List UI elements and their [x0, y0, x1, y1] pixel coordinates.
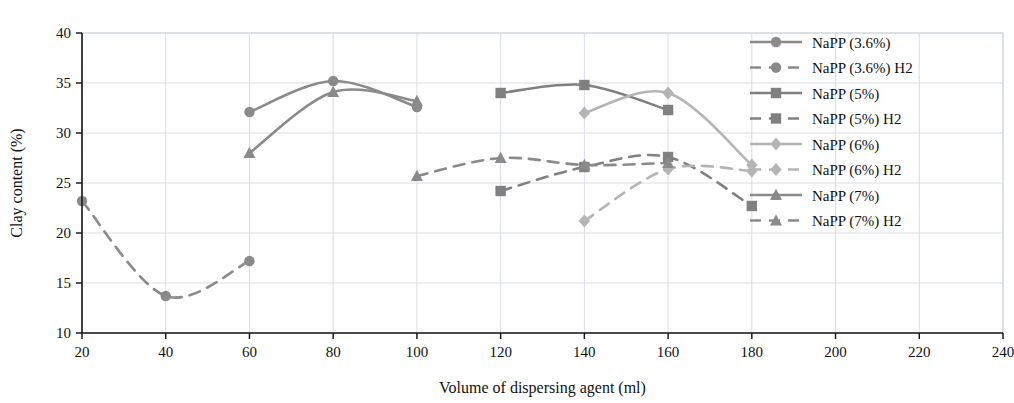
legend-item-3[interactable]: NaPP (5%) H2 [750, 111, 901, 128]
legend-item-2[interactable]: NaPP (5%) [750, 86, 879, 103]
legend-item-1[interactable]: NaPP (3.6%) H2 [750, 60, 913, 77]
legend-label: NaPP (6%) H2 [812, 162, 901, 179]
data-point [747, 201, 757, 211]
legend-label: NaPP (3.6%) H2 [812, 60, 913, 77]
legend-label: NaPP (5%) H2 [812, 111, 901, 128]
data-point [161, 291, 171, 301]
data-point [328, 76, 338, 86]
legend-item-6[interactable]: NaPP (7%) [750, 188, 879, 205]
x-tick-label: 200 [824, 344, 847, 360]
y-tick-label: 35 [56, 75, 71, 91]
gridlines [82, 33, 1003, 333]
y-tick-label: 30 [56, 125, 71, 141]
legend-item-5[interactable]: NaPP (6%) H2 [750, 162, 901, 179]
clay-content-chart: 1015202530354020406080100120140160180200… [0, 0, 1014, 403]
data-point [244, 256, 254, 266]
x-tick-label: 220 [908, 344, 931, 360]
y-tick-label: 15 [56, 275, 71, 291]
legend-marker-circle [771, 62, 781, 72]
y-tick-label: 10 [56, 325, 71, 341]
data-point [244, 107, 254, 117]
x-tick-label: 40 [158, 344, 173, 360]
data-point [579, 80, 589, 90]
y-tick-label: 20 [56, 225, 71, 241]
legend-marker-diamond [770, 163, 781, 176]
y-axis-title: Clay content (%) [8, 128, 26, 237]
data-point [495, 186, 505, 196]
axis-layer [76, 33, 1003, 339]
x-tick-label: 80 [326, 344, 341, 360]
data-point [579, 215, 590, 228]
legend-label: NaPP (6%) [812, 137, 879, 154]
x-tick-label: 240 [992, 344, 1014, 360]
legend-marker-square [771, 113, 781, 123]
x-tick-label: 180 [741, 344, 764, 360]
legend-marker-circle [771, 37, 781, 47]
y-tick-label: 40 [56, 25, 71, 41]
legend-label: NaPP (7%) [812, 188, 879, 205]
x-axis-title: Volume of dispersing agent (ml) [439, 379, 646, 397]
legend-item-0[interactable]: NaPP (3.6%) [750, 35, 891, 52]
legend-item-7[interactable]: NaPP (7%) H2 [750, 213, 901, 230]
legend-label: NaPP (5%) [812, 86, 879, 103]
legend-marker-diamond [770, 138, 781, 151]
legend-label: NaPP (3.6%) [812, 35, 891, 52]
y-tick-label: 25 [56, 175, 71, 191]
x-tick-label: 20 [75, 344, 90, 360]
x-tick-label: 120 [489, 344, 512, 360]
x-tick-label: 160 [657, 344, 680, 360]
legend-item-4[interactable]: NaPP (6%) [750, 137, 879, 154]
legend-label: NaPP (7%) H2 [812, 213, 901, 230]
x-tick-label: 140 [573, 344, 596, 360]
legend-marker-square [771, 88, 781, 98]
x-tick-label: 60 [242, 344, 257, 360]
data-point [495, 88, 505, 98]
chart-canvas: 1015202530354020406080100120140160180200… [0, 0, 1014, 403]
data-point [662, 87, 673, 100]
data-point [579, 107, 590, 120]
data-point [663, 105, 673, 115]
x-tick-label: 100 [406, 344, 429, 360]
legend[interactable]: NaPP (3.6%)NaPP (3.6%) H2NaPP (5%)NaPP (… [750, 35, 913, 231]
